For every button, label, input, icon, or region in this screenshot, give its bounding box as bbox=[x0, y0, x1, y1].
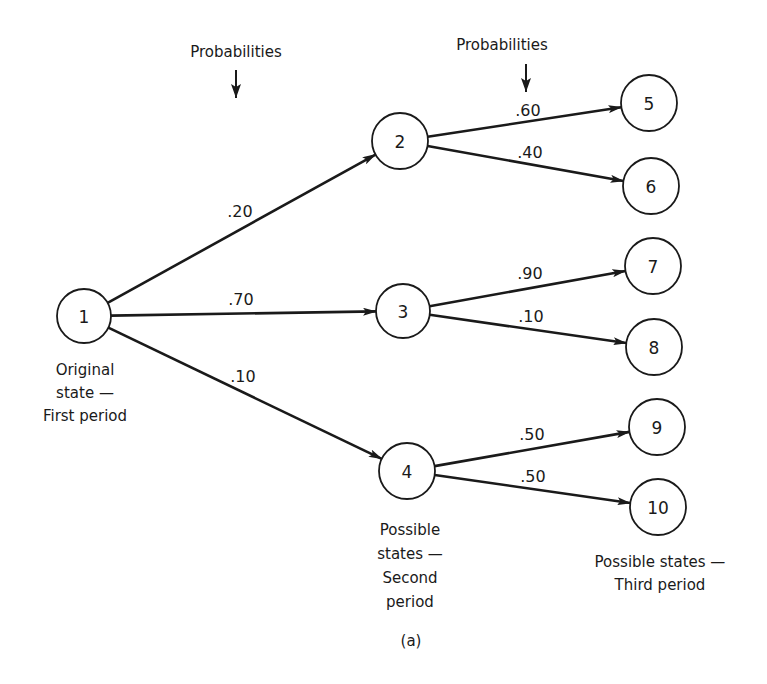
edge-1-to-4 bbox=[108, 328, 381, 459]
state-node-5: 5 bbox=[621, 75, 677, 131]
state-node-2: 2 bbox=[372, 113, 428, 169]
probability-label: .20 bbox=[227, 202, 252, 221]
node-label: 2 bbox=[395, 132, 406, 152]
node-label: 10 bbox=[647, 498, 669, 518]
header-label-probabilities: Probabilities bbox=[190, 43, 282, 61]
state-node-9: 9 bbox=[629, 399, 685, 455]
probability-label: .10 bbox=[230, 367, 255, 386]
probability-label: .70 bbox=[228, 290, 253, 309]
node-label: 9 bbox=[652, 418, 663, 438]
caption-second-period: Possiblestates —Secondperiod bbox=[377, 521, 443, 611]
header-labels: ProbabilitiesProbabilities bbox=[190, 36, 548, 98]
state-node-7: 7 bbox=[625, 238, 681, 294]
caption-third-period: Possible states —Third period bbox=[595, 553, 726, 594]
edge-1-to-3 bbox=[111, 311, 376, 315]
caption-original-state: Originalstate —First period bbox=[43, 361, 127, 425]
probability-label: .40 bbox=[517, 143, 542, 162]
state-node-3: 3 bbox=[376, 284, 430, 338]
node-label: 6 bbox=[646, 177, 657, 197]
probability-label: .60 bbox=[515, 101, 540, 120]
probability-tree-diagram: ProbabilitiesProbabilities .20.70.10.60.… bbox=[0, 0, 767, 684]
probability-label: .50 bbox=[520, 467, 545, 486]
state-node-10: 10 bbox=[630, 479, 686, 535]
node-label: 5 bbox=[644, 94, 655, 114]
node-label: 3 bbox=[398, 302, 409, 322]
state-node-8: 8 bbox=[626, 319, 682, 375]
state-node-1: 1 bbox=[57, 289, 111, 343]
node-label: 8 bbox=[649, 338, 660, 358]
subfigure-label: (a) bbox=[401, 632, 422, 650]
edge-1-to-2 bbox=[108, 155, 376, 303]
state-node-4: 4 bbox=[379, 443, 435, 499]
edges bbox=[108, 107, 631, 503]
header-label-probabilities: Probabilities bbox=[456, 36, 548, 54]
probability-label: .50 bbox=[519, 425, 544, 444]
node-label: 4 bbox=[402, 462, 413, 482]
node-label: 1 bbox=[79, 307, 90, 327]
nodes: 12345678910 bbox=[57, 75, 686, 535]
probability-label: .10 bbox=[518, 307, 543, 326]
state-node-6: 6 bbox=[623, 158, 679, 214]
node-label: 7 bbox=[648, 257, 659, 277]
probability-label: .90 bbox=[517, 264, 542, 283]
